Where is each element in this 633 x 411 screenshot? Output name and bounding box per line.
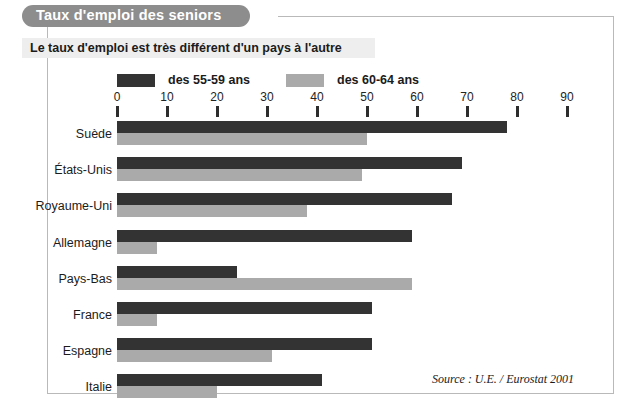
bar-dark (117, 266, 237, 278)
bar-light (117, 133, 367, 145)
bar-dark (117, 230, 412, 242)
bar-dark (117, 121, 507, 133)
legend-swatch-60-64 (286, 74, 324, 87)
legend-label-55-59: des 55-59 ans (168, 73, 250, 87)
x-tick-mark (216, 106, 219, 117)
x-tick-label: 40 (310, 90, 323, 104)
bar-light (117, 169, 362, 181)
x-tick-mark (466, 106, 469, 117)
category-label: Allemagne (53, 236, 112, 250)
x-tick-mark (266, 106, 269, 117)
category-label: Espagne (63, 344, 112, 358)
source-note: Source : U.E. / Eurostat 2001 (432, 372, 574, 387)
bar-light (117, 314, 157, 326)
x-tick-label: 10 (160, 90, 173, 104)
x-tick-label: 70 (460, 90, 473, 104)
category-label: États-Unis (54, 163, 112, 177)
category-label: Royaume-Uni (36, 199, 112, 213)
x-tick-label: 0 (114, 90, 121, 104)
legend-item-55-59: des 55-59 ans (117, 73, 250, 87)
x-tick-label: 50 (360, 90, 373, 104)
bar-dark (117, 302, 372, 314)
plot-area: des 55-59 ans des 60-64 ans 010203040506… (0, 0, 633, 411)
legend-swatch-55-59 (117, 74, 155, 87)
x-tick-mark (366, 106, 369, 117)
x-tick-label: 80 (510, 90, 523, 104)
x-tick-mark (566, 106, 569, 117)
bar-light (117, 350, 272, 362)
x-tick-label: 20 (210, 90, 223, 104)
x-tick-mark (316, 106, 319, 117)
legend-item-60-64: des 60-64 ans (286, 73, 419, 87)
bar-dark (117, 157, 462, 169)
x-tick-mark (116, 106, 119, 117)
bar-light (117, 242, 157, 254)
legend-label-60-64: des 60-64 ans (337, 73, 419, 87)
x-tick-mark (416, 106, 419, 117)
x-tick-label: 60 (410, 90, 423, 104)
category-label: Pays-Bas (59, 272, 113, 286)
bar-dark (117, 193, 452, 205)
category-label: France (73, 308, 112, 322)
x-tick-mark (166, 106, 169, 117)
bar-dark (117, 374, 322, 386)
x-tick-label: 30 (260, 90, 273, 104)
bar-dark (117, 338, 372, 350)
chart-figure: Taux d'emploi des seniors Le taux d'empl… (0, 0, 633, 411)
bar-light (117, 386, 217, 398)
x-tick-mark (516, 106, 519, 117)
category-label: Italie (86, 380, 112, 394)
category-label: Suède (76, 127, 112, 141)
bar-light (117, 278, 412, 290)
bar-light (117, 205, 307, 217)
x-tick-label: 90 (560, 90, 573, 104)
